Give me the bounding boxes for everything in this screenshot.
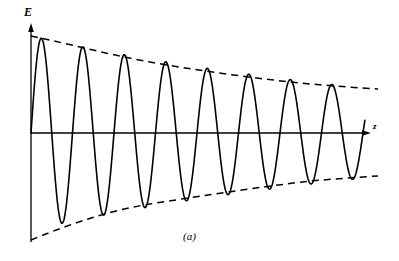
y-axis-arrowhead <box>28 23 34 32</box>
damped-sine-wave <box>31 38 365 223</box>
damped-wave-plot <box>0 0 399 261</box>
x-axis-label: z <box>373 122 377 131</box>
upper-envelope-curve <box>31 36 378 89</box>
y-axis-label: E <box>24 6 32 18</box>
lower-envelope-curve <box>31 176 378 240</box>
figure-container: E z (a) <box>0 0 399 261</box>
damped-sine-wave-group <box>31 38 365 223</box>
figure-caption: (a) <box>183 231 196 242</box>
envelope-group <box>31 36 378 240</box>
